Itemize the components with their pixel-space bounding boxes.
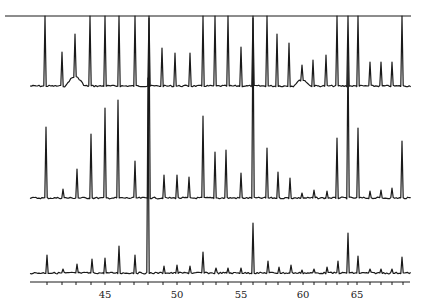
x-axis: 45 50 55 60 65	[30, 282, 410, 300]
spectrum-chart: 45 50 55 60 65	[0, 0, 422, 306]
x-tick-label: 55	[235, 289, 248, 300]
x-tick-label: 45	[99, 289, 112, 300]
trace-middle	[30, 18, 411, 199]
x-tick-label: 60	[297, 289, 310, 300]
x-tick-label: 65	[351, 289, 364, 300]
x-axis-tick-labels: 45 50 55 60 65	[99, 289, 364, 300]
trace-bottom	[30, 78, 411, 274]
x-tick-label: 50	[171, 289, 184, 300]
trace-top	[30, 16, 411, 87]
traces-group	[30, 16, 411, 274]
